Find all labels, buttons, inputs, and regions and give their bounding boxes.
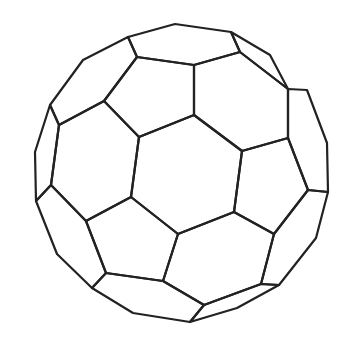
left-hexagon	[51, 101, 139, 221]
truncated-icosahedron-drawing	[0, 0, 353, 346]
top-hexagon	[128, 24, 240, 65]
bottom-left-pentagon	[86, 197, 178, 281]
top-right-strip	[231, 32, 288, 89]
lower-left-strip	[36, 185, 106, 288]
top-left-hexagon	[50, 37, 137, 125]
bottom-right-strip	[190, 284, 279, 322]
right-strip	[288, 89, 328, 192]
upper-right-hexagon	[194, 52, 288, 151]
right-pentagon	[234, 138, 308, 234]
lower-right-strip	[261, 190, 328, 285]
bottom-strip	[92, 273, 204, 322]
top-pentagon	[104, 57, 194, 137]
soccer-ball-diagram	[0, 0, 353, 346]
left-strip	[35, 105, 59, 201]
